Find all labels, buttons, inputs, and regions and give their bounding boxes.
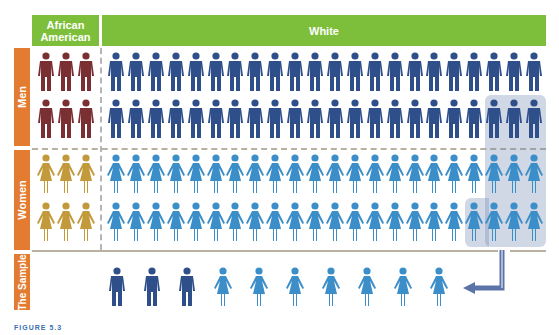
man-icon: [526, 99, 542, 143]
woman-icon: [464, 154, 484, 198]
woman-icon: [206, 202, 226, 246]
man-icon: [307, 99, 323, 143]
man-icon: [387, 99, 403, 143]
side-label-women: Women: [14, 150, 30, 250]
woman-icon: [524, 202, 544, 246]
woman-icon: [106, 154, 126, 198]
man-icon: [387, 52, 403, 96]
woman-icon: [504, 154, 524, 198]
man-icon: [466, 99, 482, 143]
side-label-men-text: Men: [16, 86, 28, 108]
sample-divider-left: [32, 250, 498, 252]
woman-icon: [424, 202, 444, 246]
woman-icon: [484, 154, 504, 198]
woman-icon: [405, 154, 425, 198]
man-icon: [188, 99, 204, 143]
man-icon: [267, 52, 283, 96]
man-icon: [327, 99, 343, 143]
woman-icon: [305, 202, 325, 246]
woman-icon: [484, 202, 504, 246]
arrow-icon: [455, 248, 515, 298]
header-white-label: White: [309, 25, 339, 37]
header-african-american: African American: [32, 15, 99, 46]
man-icon: [367, 52, 383, 96]
woman-icon: [36, 202, 56, 246]
woman-icon: [56, 202, 76, 246]
sample-man-icon: [144, 267, 160, 311]
man-icon: [407, 52, 423, 96]
man-icon: [227, 52, 243, 96]
man-icon: [426, 52, 442, 96]
woman-icon: [464, 202, 484, 246]
woman-icon: [146, 154, 166, 198]
man-icon: [486, 99, 502, 143]
side-label-sample: The Sample: [14, 254, 30, 310]
man-icon: [208, 99, 224, 143]
man-icon: [38, 52, 54, 96]
woman-icon: [285, 202, 305, 246]
woman-icon: [186, 202, 206, 246]
man-icon: [78, 52, 94, 96]
man-icon: [227, 99, 243, 143]
woman-icon: [285, 154, 305, 198]
man-icon: [367, 99, 383, 143]
woman-icon: [225, 202, 245, 246]
woman-icon: [444, 202, 464, 246]
man-icon: [426, 99, 442, 143]
woman-icon: [524, 154, 544, 198]
woman-icon: [385, 202, 405, 246]
side-label-men: Men: [14, 48, 30, 146]
woman-icon: [56, 154, 76, 198]
woman-icon: [504, 202, 524, 246]
man-icon: [108, 52, 124, 96]
sample-woman-icon: [393, 267, 413, 311]
woman-icon: [265, 202, 285, 246]
sample-woman-icon: [249, 267, 269, 311]
woman-icon: [76, 202, 96, 246]
man-icon: [446, 52, 462, 96]
sample-divider-right: [510, 250, 546, 252]
man-icon: [188, 52, 204, 96]
gender-divider: [32, 148, 546, 150]
sample-woman-icon: [285, 267, 305, 311]
sample-woman-icon: [429, 267, 449, 311]
sample-man-icon: [109, 267, 125, 311]
woman-icon: [325, 202, 345, 246]
man-icon: [38, 99, 54, 143]
man-icon: [347, 99, 363, 143]
man-icon: [267, 99, 283, 143]
woman-icon: [186, 154, 206, 198]
man-icon: [307, 52, 323, 96]
woman-icon: [365, 202, 385, 246]
man-icon: [168, 52, 184, 96]
woman-icon: [166, 154, 186, 198]
woman-icon: [424, 154, 444, 198]
man-icon: [148, 52, 164, 96]
man-icon: [247, 52, 263, 96]
woman-icon: [405, 202, 425, 246]
woman-icon: [245, 154, 265, 198]
man-icon: [466, 52, 482, 96]
woman-icon: [166, 202, 186, 246]
woman-icon: [245, 202, 265, 246]
man-icon: [247, 99, 263, 143]
man-icon: [486, 52, 502, 96]
woman-icon: [106, 202, 126, 246]
man-icon: [347, 52, 363, 96]
man-icon: [526, 52, 542, 96]
man-icon: [446, 99, 462, 143]
woman-icon: [345, 154, 365, 198]
man-icon: [58, 99, 74, 143]
woman-icon: [76, 154, 96, 198]
side-label-women-text: Women: [16, 180, 28, 220]
man-icon: [208, 52, 224, 96]
man-icon: [168, 99, 184, 143]
man-icon: [506, 52, 522, 96]
woman-icon: [265, 154, 285, 198]
man-icon: [128, 52, 144, 96]
woman-icon: [146, 202, 166, 246]
man-icon: [108, 99, 124, 143]
figure-caption: FIGURE 5.3: [14, 324, 62, 331]
woman-icon: [444, 154, 464, 198]
woman-icon: [385, 154, 405, 198]
